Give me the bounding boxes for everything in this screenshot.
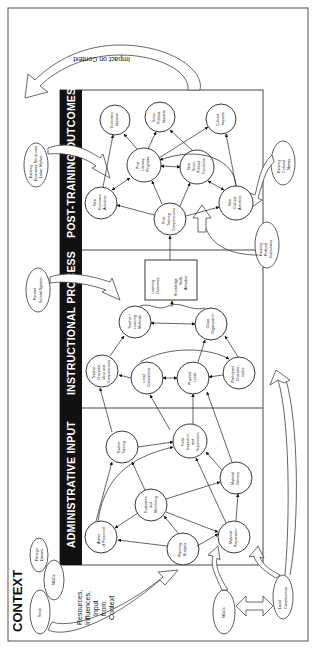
svg-text:Foreign: Foreign bbox=[35, 548, 39, 561]
node-evaluation: Evaluation and Monitoring bbox=[135, 489, 167, 521]
svg-text:New: New bbox=[187, 162, 191, 170]
context-title: CONTEXT bbox=[10, 570, 25, 632]
svg-text:Skills: Skills bbox=[179, 276, 183, 285]
svg-text:Teacher: Teacher bbox=[117, 440, 121, 454]
svg-text:Field: Field bbox=[181, 438, 185, 446]
svg-text:Cultural: Cultural bbox=[233, 196, 237, 209]
node-admin-personnel: Admin. of Personnel bbox=[85, 521, 117, 553]
node-participant-characteristics: Participant Characte- ristics bbox=[223, 357, 255, 389]
svg-text:istics and: istics and bbox=[102, 365, 106, 380]
svg-text:School System: School System bbox=[39, 278, 43, 303]
diagram-canvas: ADMINISTRATIVE INPUT INSTRUCTIONAL PROCE… bbox=[0, 0, 314, 655]
edge-planning-prep bbox=[197, 534, 218, 546]
svg-text:Literacy: Literacy bbox=[141, 158, 145, 171]
double-arrow-ngos-communities bbox=[236, 596, 273, 616]
svg-text:ADMINISTRATIVE INPUT: ADMINISTRATIVE INPUT bbox=[65, 421, 77, 548]
node-cultural-impacts: Cultural Impacts bbox=[206, 104, 236, 134]
svg-text:Socio-: Socio- bbox=[152, 111, 156, 122]
section-label-admin: ADMINISTRATIVE INPUT bbox=[65, 421, 77, 548]
svg-text:Formal: Formal bbox=[33, 288, 37, 300]
node-field-inspection: Field Inspection and Supervision bbox=[173, 424, 207, 458]
node-class-organization: Class Organization bbox=[195, 308, 227, 340]
svg-text:Supervision: Supervision bbox=[196, 432, 200, 451]
svg-text:Post-: Post- bbox=[162, 215, 166, 224]
section-label-instr: INSTRUCTIONAL PROCESS bbox=[65, 251, 77, 395]
node-post-literacy-programs: Post Literacy Programs bbox=[127, 148, 161, 182]
svg-text:Class: Class bbox=[206, 319, 210, 328]
svg-text:Character-: Character- bbox=[97, 362, 101, 380]
edge-localcomm-teacherchar bbox=[119, 375, 131, 378]
arrow-political-to-post bbox=[193, 205, 211, 232]
svg-text:Labor Market: Labor Market bbox=[39, 155, 43, 178]
svg-text:Communities: Communities bbox=[284, 587, 288, 609]
svg-text:Participant: Participant bbox=[231, 366, 235, 383]
edge-delivery-physical bbox=[207, 392, 232, 462]
svg-text:Activities: Activities bbox=[103, 196, 107, 210]
arrow-communities-to-admin bbox=[249, 546, 280, 578]
svg-text:Characte-: Characte- bbox=[236, 364, 240, 381]
edge-prep-field bbox=[196, 458, 226, 523]
svg-text:Committees: Committees bbox=[147, 368, 151, 387]
svg-text:Existing: Existing bbox=[277, 160, 281, 173]
edge-localcomm-participant bbox=[140, 350, 229, 362]
svg-text:Political: Political bbox=[197, 160, 201, 173]
svg-text:Post: Post bbox=[136, 162, 140, 169]
svg-text:INSTRUCTIONAL PROCESS: INSTRUCTIONAL PROCESS bbox=[65, 251, 77, 395]
svg-text:Inspection: Inspection bbox=[186, 434, 190, 450]
edge-delivery-field bbox=[206, 452, 222, 470]
edge-training-field bbox=[138, 442, 173, 447]
edge-participant-physical bbox=[209, 375, 223, 377]
svg-text:Material: Material bbox=[229, 531, 233, 544]
edge-pt-sociopolitical bbox=[180, 183, 190, 206]
ctx-existing-economic: Existing Economic Structures Labor Marke… bbox=[24, 143, 48, 187]
svg-text:State: State bbox=[38, 608, 42, 617]
edge-eval-delivery bbox=[166, 482, 220, 499]
node-planning: Planning Budgets bbox=[167, 533, 199, 565]
edge-sociopolitical-cultural bbox=[208, 181, 224, 190]
edge-literacy-sociopolitical bbox=[161, 166, 180, 167]
edge-training-teacherchar bbox=[100, 388, 112, 432]
svg-text:Impacts: Impacts bbox=[162, 110, 166, 123]
svg-text:Influences,: Influences, bbox=[84, 591, 91, 625]
node-economic-impacts: Economic Impacts bbox=[100, 105, 130, 135]
svg-text:and: and bbox=[149, 502, 153, 508]
section-label-post: POST-TRAINING OUTCOMES bbox=[65, 88, 77, 238]
ctx-foreign-donors: Foreign Donors bbox=[30, 538, 48, 572]
edge-prep-delivery bbox=[236, 494, 238, 521]
svg-text:Impacts: Impacts bbox=[115, 113, 119, 126]
edge-eval-prep bbox=[166, 512, 218, 532]
svg-text:Budgets: Budgets bbox=[183, 543, 187, 556]
node-new-cultural-activities: New Cultural Activities bbox=[219, 186, 253, 220]
edge-planning-admin bbox=[118, 540, 167, 546]
edge-eval-admin bbox=[115, 513, 138, 528]
node-learning-outcomes: Learning Outcomes: Knowledge Skills Atti… bbox=[145, 260, 197, 300]
svg-text:Learning: Learning bbox=[133, 315, 137, 329]
node-new-economic-activities: New Economic Activities bbox=[85, 187, 117, 219]
edge-literacy-econimpacts bbox=[124, 134, 137, 149]
edge-participant-class bbox=[225, 336, 238, 357]
svg-text:and: and bbox=[191, 439, 195, 445]
node-new-sociopolitical-functions: New Socio- Political Functions bbox=[180, 150, 214, 184]
svg-text:Material: Material bbox=[231, 472, 235, 485]
ctx-existing-cultural: Existing Cultural Norms bbox=[271, 141, 295, 185]
svg-text:Political: Political bbox=[264, 243, 268, 256]
svg-text:Existing: Existing bbox=[29, 165, 33, 178]
node-material-preparation: Material Preparation bbox=[218, 521, 250, 553]
svg-text:Methods: Methods bbox=[138, 315, 142, 329]
svg-text:Teacher /: Teacher / bbox=[128, 314, 132, 329]
node-teacher-training: Teacher Training bbox=[106, 431, 138, 463]
svg-text:Local: Local bbox=[193, 373, 197, 382]
svg-text:Impacts: Impacts bbox=[221, 112, 225, 125]
long-arrow-communities-instr bbox=[278, 380, 288, 575]
node-sociopolitical-impacts: Socio- Political Impacts bbox=[145, 102, 175, 132]
node-teacher-characteristics: Teacher Character- istics and Competenci… bbox=[86, 355, 118, 387]
node-physical-local: Physical Local bbox=[177, 362, 209, 394]
svg-text:Training: Training bbox=[122, 441, 126, 454]
edge-sp-spimpacts bbox=[170, 130, 193, 151]
svg-text:Knowledge: Knowledge bbox=[174, 278, 178, 296]
svg-text:Political: Political bbox=[157, 111, 161, 124]
svg-text:Teacher: Teacher bbox=[92, 365, 96, 379]
impact-label: Impact on Context bbox=[73, 55, 130, 63]
edge-field-localcomm bbox=[150, 395, 170, 430]
svg-text:Admin.: Admin. bbox=[97, 533, 101, 544]
